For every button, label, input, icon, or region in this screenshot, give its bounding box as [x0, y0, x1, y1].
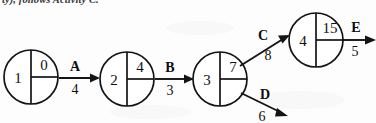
edge-D-duration: 6: [259, 109, 266, 123]
edge-C-duration: 8: [265, 48, 272, 63]
edge-C[interactable]: C 8: [240, 28, 290, 66]
node-1-left-value: 1: [14, 70, 22, 86]
edge-D-letter: D: [260, 87, 270, 102]
edge-D-arrowhead: [275, 108, 288, 117]
edge-B[interactable]: B 3: [155, 60, 194, 98]
edge-A[interactable]: A 4: [59, 59, 100, 97]
node-4-left-value: 4: [299, 33, 307, 49]
node-3[interactable]: 3 7: [193, 52, 247, 106]
node-4-top-right-value: 15: [323, 20, 338, 36]
edge-A-duration: 4: [72, 82, 79, 97]
activity-network-diagram: 1 0 A 4 2 4 B 3 3: [0, 0, 376, 123]
node-2[interactable]: 2 4: [100, 52, 154, 106]
edge-E-duration: 5: [352, 44, 359, 59]
edge-C-letter: C: [258, 28, 268, 43]
edge-B-duration: 3: [167, 83, 174, 98]
edge-A-letter: A: [70, 59, 81, 74]
edge-E-letter: E: [351, 20, 360, 35]
edge-C-line: [240, 39, 283, 66]
node-3-left-value: 3: [203, 72, 211, 88]
node-2-top-right-value: 4: [136, 59, 144, 75]
edge-A-arrowhead: [90, 74, 100, 83]
diagram-page: ty), follows Activity C. 1 0 A 4: [0, 0, 376, 123]
node-1[interactable]: 1 0: [4, 50, 58, 104]
edge-B-letter: B: [165, 60, 174, 75]
node-4[interactable]: 4 15: [289, 13, 343, 67]
edge-E-arrowhead: [365, 36, 376, 45]
node-3-top-right-value: 7: [229, 59, 237, 75]
node-1-top-right-value: 0: [40, 57, 48, 73]
edge-E[interactable]: E 5: [343, 20, 376, 59]
node-2-left-value: 2: [110, 72, 118, 88]
